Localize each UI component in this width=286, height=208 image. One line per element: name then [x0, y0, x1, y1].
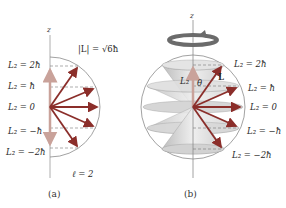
theta-label: θ — [197, 78, 202, 88]
caption-b: (b) — [184, 189, 197, 199]
panel-b: z L₂ θ L L₂ = 2ħ L₂ = ħ L₂ = 0 — [141, 12, 281, 199]
level-label-b-neg1: L₂ = −ħ — [246, 126, 281, 136]
level-label-b-1: L₂ = ħ — [247, 83, 275, 93]
level-label-0: L₂ = 0 — [7, 102, 36, 112]
level-label-1: L₂ = ħ — [7, 81, 35, 91]
level-label-neg2: L₂ = −2ħ — [5, 147, 46, 157]
ell-label: ℓ = 2 — [72, 169, 93, 179]
z-axis-label-b: z — [189, 12, 194, 20]
magnitude-label: |L| = √6ħ — [78, 44, 119, 55]
lz-label: L₂ — [179, 76, 190, 86]
angular-momentum-diagram: z |L| = √6ħ L₂ = 2ħ L₂ = ħ L₂ = 0 L₂ = −… — [0, 0, 286, 208]
level-label-b-2: L₂ = 2ħ — [233, 59, 266, 69]
level-label-b-neg2: L₂ = −2ħ — [231, 150, 272, 160]
panel-a: z |L| = √6ħ L₂ = 2ħ L₂ = ħ L₂ = 0 L₂ = −… — [5, 26, 119, 199]
level-label-2: L₂ = 2ħ — [7, 60, 40, 70]
l-vectors — [50, 68, 97, 146]
z-axis-label: z — [46, 26, 51, 34]
level-label-b-0: L₂ = 0 — [249, 102, 278, 112]
vector-label: L — [218, 72, 224, 82]
caption-a: (a) — [48, 189, 60, 199]
level-label-neg1: L₂ = −ħ — [7, 126, 42, 136]
